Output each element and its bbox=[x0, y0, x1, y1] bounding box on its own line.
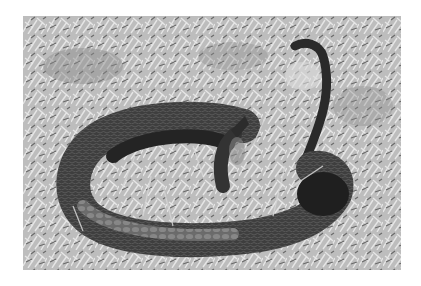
snake-photo: Grayscale photograph of a coiled snake l… bbox=[23, 16, 401, 270]
snake-in-grass-image bbox=[23, 16, 401, 270]
